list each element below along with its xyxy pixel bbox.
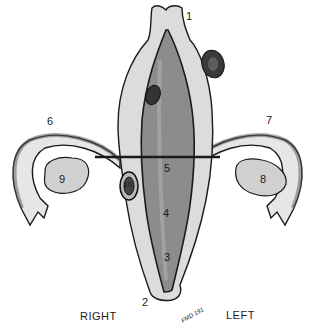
label-4: 4: [163, 208, 169, 219]
label-8: 8: [260, 174, 266, 185]
label-5: 5: [164, 163, 170, 174]
uterus-illustration: [0, 0, 314, 327]
label-3: 3: [164, 252, 170, 263]
label-1: 1: [186, 11, 192, 22]
label-10: 10: [123, 181, 132, 189]
label-9: 9: [59, 174, 65, 185]
label-2: 2: [142, 297, 148, 308]
right-ovary: [44, 158, 88, 194]
label-7: 7: [266, 115, 272, 126]
side-label-right: RIGHT: [80, 310, 117, 322]
label-6: 6: [47, 116, 53, 127]
side-label-left: LEFT: [226, 309, 255, 321]
